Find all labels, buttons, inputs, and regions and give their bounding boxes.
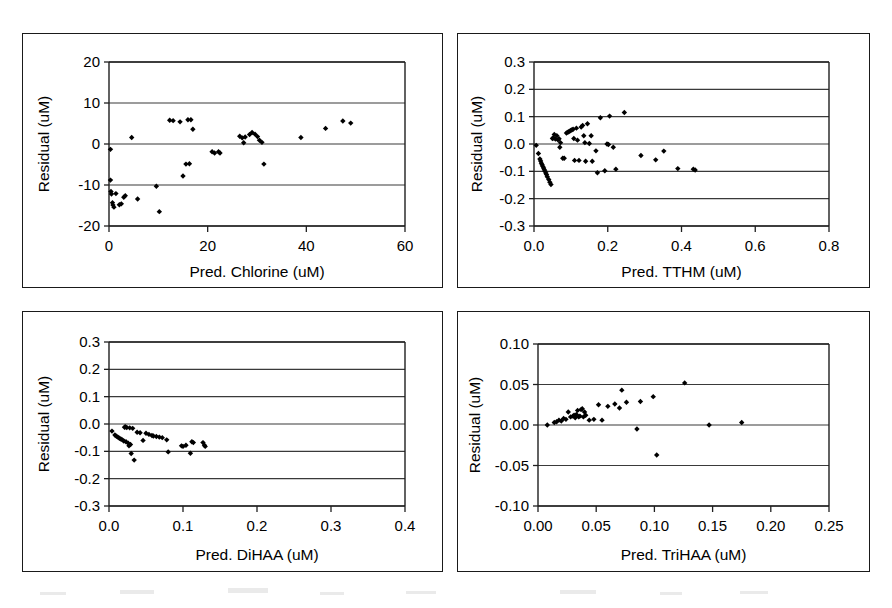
xtick-label: 0.00 (523, 517, 552, 534)
xtick-label: 0.05 (582, 517, 611, 534)
panel-dihaa: -0.3-0.2-0.10.00.10.20.30.00.10.20.30.4P… (22, 311, 443, 572)
xtick-label: 0.0 (524, 237, 545, 254)
ytick-label: 0.3 (79, 333, 100, 350)
data-point (590, 159, 595, 164)
xtick-label: 0.8 (819, 237, 840, 254)
ytick-label: -0.1 (74, 442, 100, 459)
chart-chlorine: -20-10010200204060Pred. Chlorine (uM)Res… (23, 34, 441, 286)
xtick-label: 0.2 (597, 237, 618, 254)
data-point (170, 118, 175, 123)
data-point (653, 157, 658, 162)
ytick-label: -10 (78, 176, 100, 193)
ytick-label: 0.2 (79, 360, 100, 377)
data-point (166, 449, 171, 454)
ytick-label: -0.05 (495, 457, 529, 474)
data-point (596, 402, 601, 407)
ytick-label: -20 (78, 217, 100, 234)
xtick-label: 0.15 (698, 517, 727, 534)
data-point (638, 399, 643, 404)
data-point (591, 417, 596, 422)
scan-artifact (320, 592, 344, 595)
scan-artifact (740, 591, 768, 594)
scan-artifact (560, 590, 596, 594)
ytick-label: 10 (83, 94, 100, 111)
data-point (624, 400, 629, 405)
ytick-label: -0.10 (495, 497, 529, 514)
data-point (113, 191, 118, 196)
panel-chlorine: -20-10010200204060Pred. Chlorine (uM)Res… (22, 33, 443, 288)
chart-trihaa: -0.10-0.050.000.050.100.000.050.100.150.… (458, 312, 868, 570)
x-axis-title: Pred. TTHM (uM) (621, 263, 741, 280)
xtick-label: 0.6 (745, 237, 766, 254)
ytick-label: -0.3 (499, 217, 525, 234)
data-point (154, 184, 159, 189)
data-point (619, 387, 624, 392)
data-point (180, 173, 185, 178)
data-point (605, 404, 610, 409)
y-axis-title: Residual (uM) (35, 96, 52, 192)
ytick-label: -0.3 (74, 497, 100, 514)
x-axis-title: Pred. TriHAA (uM) (621, 546, 747, 563)
ytick-label: -0.2 (74, 470, 100, 487)
data-point (634, 426, 639, 431)
data-point (598, 115, 603, 120)
panel-tthm: -0.3-0.2-0.10.00.10.20.30.00.20.40.60.8P… (457, 33, 870, 288)
data-point (109, 428, 114, 433)
ytick-label: 0.05 (500, 376, 529, 393)
data-point (131, 457, 136, 462)
data-point (140, 438, 145, 443)
ytick-label: -0.1 (499, 162, 525, 179)
data-point (611, 145, 616, 150)
data-point (607, 113, 612, 118)
data-point (602, 168, 607, 173)
scan-artifact (228, 588, 268, 593)
scan-artifact (406, 591, 436, 594)
y-axis-title: Residual (uM) (466, 377, 483, 473)
data-point (617, 405, 622, 410)
xtick-label: 0.3 (321, 517, 342, 534)
data-point (587, 417, 592, 422)
data-point (583, 159, 588, 164)
xtick-label: 0.20 (756, 517, 785, 534)
data-point (599, 417, 604, 422)
data-point (612, 401, 617, 406)
data-point (536, 151, 541, 156)
data-point (566, 409, 571, 414)
chart-tthm: -0.3-0.2-0.10.00.10.20.30.00.20.40.60.8P… (458, 34, 868, 286)
data-point (576, 158, 581, 163)
data-point (587, 141, 592, 146)
xtick-label: 0.4 (671, 237, 692, 254)
data-point (323, 126, 328, 131)
data-point (340, 118, 345, 123)
xtick-label: 40 (298, 237, 315, 254)
data-point (588, 133, 593, 138)
x-axis-title: Pred. Chlorine (uM) (189, 263, 324, 280)
panel-trihaa: -0.10-0.050.000.050.100.000.050.100.150.… (457, 311, 870, 572)
data-point (241, 140, 246, 145)
ytick-label: 0.2 (504, 80, 525, 97)
data-point (157, 209, 162, 214)
scan-artifact (660, 592, 682, 595)
ytick-label: -0.2 (499, 190, 525, 207)
residual-plot-figure: -20-10010200204060Pred. Chlorine (uM)Res… (0, 0, 892, 608)
xtick-label: 0.2 (247, 517, 268, 534)
data-point (557, 145, 562, 150)
data-point (581, 133, 586, 138)
ytick-label: 20 (83, 53, 100, 70)
data-point (654, 452, 659, 457)
xtick-label: 0.4 (395, 517, 416, 534)
xtick-label: 0 (105, 237, 113, 254)
data-point (164, 437, 169, 442)
data-point (187, 161, 192, 166)
data-point (585, 121, 590, 126)
y-axis-title: Residual (uM) (35, 376, 52, 472)
xtick-label: 60 (397, 237, 414, 254)
data-point (298, 135, 303, 140)
data-point (706, 422, 711, 427)
y-axis-title: Residual (uM) (468, 96, 485, 192)
data-point (545, 422, 550, 427)
data-point (261, 161, 266, 166)
scan-artifact (40, 592, 66, 595)
data-point (129, 135, 134, 140)
xtick-label: 0.1 (173, 517, 194, 534)
